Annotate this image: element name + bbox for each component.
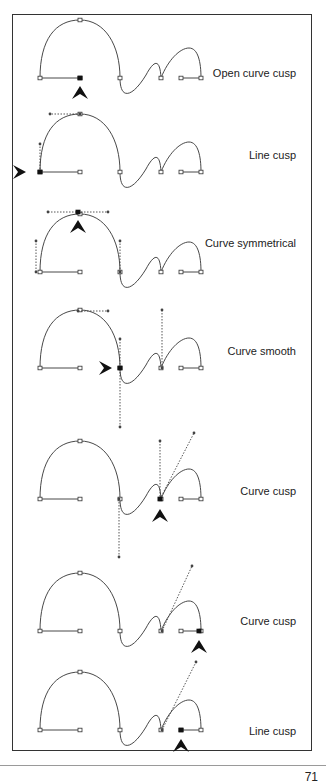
control-handle-line <box>162 566 192 631</box>
arrow-right-icon <box>13 165 26 179</box>
panel-label: Open curve cusp <box>213 67 296 79</box>
node-square-icon <box>118 728 122 732</box>
control-handle-line <box>162 662 196 730</box>
node-square-icon <box>199 170 203 174</box>
bezier-path <box>40 573 201 646</box>
selected-node-icon <box>158 497 163 502</box>
curve-panel <box>38 212 203 287</box>
panel-label: Curve cusp <box>240 485 296 497</box>
control-point-dot <box>47 211 50 214</box>
page-number: 71 <box>305 770 318 783</box>
control-point-dot <box>118 556 121 559</box>
node-square-icon <box>78 18 82 22</box>
selected-node-icon <box>197 629 202 634</box>
node-square-icon <box>179 170 183 174</box>
curve-diagram <box>0 0 326 783</box>
bezier-path <box>40 214 201 287</box>
bezier-path <box>40 672 201 745</box>
bezier-path <box>40 20 201 93</box>
node-square-icon <box>118 629 122 633</box>
node-square-icon <box>179 629 183 633</box>
bezier-path <box>40 310 201 383</box>
node-square-icon <box>78 629 82 633</box>
node-square-icon <box>38 497 42 501</box>
curve-panel <box>38 308 203 383</box>
node-square-icon <box>199 76 203 80</box>
arrow-right-icon <box>99 361 112 375</box>
node-square-icon <box>78 439 82 443</box>
panel-label: Curve smooth <box>228 345 296 357</box>
node-square-icon <box>38 366 42 370</box>
node-square-icon <box>199 270 203 274</box>
control-point-dot <box>119 426 122 429</box>
node-square-icon <box>159 170 163 174</box>
node-square-icon <box>118 170 122 174</box>
node-square-icon <box>78 571 82 575</box>
control-point-dot <box>107 310 110 313</box>
curve-panel <box>38 571 203 646</box>
node-square-icon <box>78 366 82 370</box>
node-square-icon <box>78 497 82 501</box>
arrow-up-icon <box>72 86 88 99</box>
node-square-icon <box>179 76 183 80</box>
control-point-dot <box>49 113 52 116</box>
control-point-dot <box>79 113 82 116</box>
node-square-icon <box>78 728 82 732</box>
control-point-dot <box>193 432 196 435</box>
node-square-icon <box>78 270 82 274</box>
node-square-icon <box>159 270 163 274</box>
node-square-icon <box>159 76 163 80</box>
selected-node-icon <box>38 170 43 175</box>
node-square-icon <box>199 728 203 732</box>
control-point-dot <box>35 271 38 274</box>
node-square-icon <box>179 270 183 274</box>
control-point-dot <box>119 240 122 243</box>
panel-label: Line cusp <box>249 149 296 161</box>
node-square-icon <box>199 497 203 501</box>
curve-panel <box>38 439 203 514</box>
control-point-dot <box>161 367 164 370</box>
footer-rule <box>0 765 326 766</box>
curve-panel <box>38 670 203 745</box>
control-point-dot <box>161 630 164 633</box>
bezier-path <box>40 114 201 187</box>
curve-panel <box>38 18 203 93</box>
node-square-icon <box>38 629 42 633</box>
control-point-dot <box>39 143 42 146</box>
node-square-icon <box>179 497 183 501</box>
node-square-icon <box>38 76 42 80</box>
control-point-dot <box>161 309 164 312</box>
arrow-up-icon <box>191 640 207 653</box>
control-point-dot <box>195 661 198 664</box>
arrow-up-icon <box>152 509 168 522</box>
control-point-dot <box>35 240 38 243</box>
control-point-dot <box>118 498 121 501</box>
arrow-up-icon <box>70 220 86 233</box>
arrow-up-icon <box>173 739 189 752</box>
node-square-icon <box>179 366 183 370</box>
bezier-path <box>40 441 201 514</box>
control-point-dot <box>191 565 194 568</box>
control-point-dot <box>161 729 164 732</box>
node-square-icon <box>118 76 122 80</box>
curve-panel <box>38 112 203 187</box>
panel-label: Line cusp <box>249 725 296 737</box>
node-square-icon <box>78 670 82 674</box>
control-point-dot <box>159 440 162 443</box>
selected-node-icon <box>78 76 83 81</box>
selected-node-icon <box>76 210 81 215</box>
node-square-icon <box>78 170 82 174</box>
panel-label: Curve cusp <box>240 615 296 627</box>
node-square-icon <box>38 728 42 732</box>
control-handle-line <box>160 433 194 499</box>
selected-node-icon <box>179 728 184 733</box>
control-point-dot <box>77 310 80 313</box>
control-point-dot <box>119 271 122 274</box>
node-square-icon <box>38 270 42 274</box>
selected-node-icon <box>118 366 123 371</box>
panel-label: Curve symmetrical <box>205 237 296 249</box>
control-point-dot <box>107 211 110 214</box>
node-square-icon <box>199 366 203 370</box>
control-point-dot <box>119 338 122 341</box>
